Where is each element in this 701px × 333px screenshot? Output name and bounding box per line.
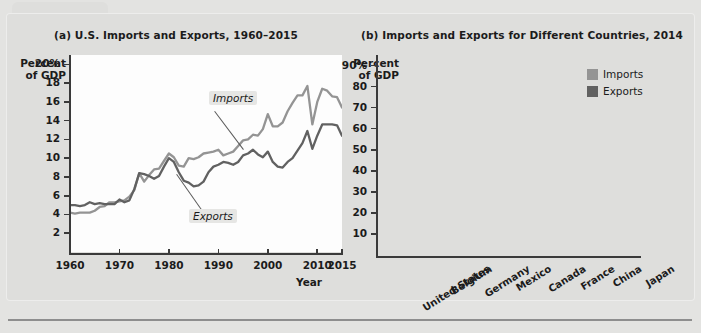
panel-b-y-tick-mark [371, 191, 377, 193]
panel-b-y-tick-label: 60 [327, 122, 367, 134]
panel-b-y-tick-mark [371, 128, 377, 130]
panel-b-y-tick-label: 10 [327, 227, 367, 239]
panel-a-y-tick-mark [64, 176, 70, 178]
panel-b-legend-label: Exports [603, 85, 643, 97]
panel-b-legend-exports-swatch [587, 86, 598, 97]
panel-b-y-tick-mark [371, 86, 377, 88]
panel-a-y-tick-label: 6 [20, 189, 60, 201]
panel-b-legend-label: Imports [603, 68, 643, 80]
panel-a-y-tick-label: 8 [20, 170, 60, 182]
panel-a-y-tick-label: 2 [20, 226, 60, 238]
panel-b-y-tick-label: 80 [327, 80, 367, 92]
panel-a-series-imports [70, 86, 342, 214]
panel-b-bar-chart: (b) Imports and Exports for Different Co… [349, 13, 695, 301]
panel-a-y-tick-label: 20% [20, 57, 60, 69]
panel-a-y-tick-mark [64, 195, 70, 197]
panel-a-y-tick-mark [64, 64, 70, 66]
panel-b-y-tick-mark [371, 233, 377, 235]
panel-b-y-tick-mark [371, 149, 377, 151]
panel-b-y-tick-label: 50 [327, 143, 367, 155]
panel-b-y-tick-label: 30 [327, 185, 367, 197]
panel-b-category-label: China [611, 263, 644, 289]
panel-a-x-tick-mark [341, 249, 343, 255]
panel-a-x-tick-label: 1970 [97, 259, 141, 271]
panel-a-line-chart: (a) U.S. Imports and Exports, 1960–2015 … [6, 13, 353, 301]
panel-a-y-tick-mark [64, 232, 70, 234]
panel-a-x-tick-mark [168, 249, 170, 255]
panel-b-legend-imports-swatch [587, 69, 598, 80]
panel-b-y-tick-label: 90% [327, 59, 367, 71]
panel-a-x-axis-line [69, 253, 343, 255]
panel-a-y-tick-label: 18 [20, 76, 60, 88]
panel-a-y-tick-mark [64, 157, 70, 159]
panel-a-y-tick-label: 16 [20, 95, 60, 107]
panel-b-title: (b) Imports and Exports for Different Co… [355, 29, 689, 41]
panel-b-category-label: Japan [643, 263, 676, 289]
panel-a-y-tick-mark [64, 139, 70, 141]
figure-bottom-rule [8, 319, 692, 321]
panel-a-x-tick-mark [218, 249, 220, 255]
panel-a-x-tick-mark [119, 249, 121, 255]
panel-a-y-tick-mark [64, 101, 70, 103]
panel-a-y-tick-mark [64, 120, 70, 122]
panel-a-y-axis-line [69, 55, 71, 254]
panel-a-exports-label: Exports [189, 209, 237, 223]
panel-a-y-tick-label: 10 [20, 151, 60, 163]
panel-b-category-label: Canada [547, 263, 588, 295]
panel-a-y-tick-label: 12 [20, 132, 60, 144]
panel-a-x-axis-title: Year [296, 276, 322, 288]
panel-b-y-tick-mark [371, 212, 377, 214]
panel-b-y-tick-label: 40 [327, 164, 367, 176]
panel-a-series-exports [70, 124, 342, 206]
panel-a-x-tick-label: 2000 [246, 259, 290, 271]
panel-a-title: (a) U.S. Imports and Exports, 1960–2015 [16, 29, 336, 41]
panel-a-x-tick-label: 1990 [196, 259, 240, 271]
panel-b-y-tick-label: 20 [327, 206, 367, 218]
panel-a-x-tick-mark [316, 249, 318, 255]
panel-a-imports-label: Imports [209, 91, 257, 105]
panel-b-y-tick-mark [371, 107, 377, 109]
panel-b-x-axis-line [376, 256, 641, 258]
panel-b-y-tick-label: 70 [327, 101, 367, 113]
panel-a-y-tick-mark [64, 214, 70, 216]
panel-a-x-tick-mark [267, 249, 269, 255]
panel-b-y-tick-mark [371, 65, 377, 67]
panel-b-y-tick-mark [371, 170, 377, 172]
panel-a-y-tick-label: 4 [20, 207, 60, 219]
panel-a-y-tick-mark [64, 82, 70, 84]
panel-a-y-tick-label: 14 [20, 114, 60, 126]
panel-a-x-tick-label: 1960 [48, 259, 92, 271]
panel-a-x-tick-label: 1980 [147, 259, 191, 271]
